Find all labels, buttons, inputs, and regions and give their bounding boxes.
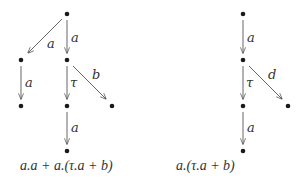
edge-label-a: a: [247, 120, 255, 135]
process-formula-left: a.a + a.(τ.a + b): [20, 158, 113, 174]
edge-label-tau: τ: [246, 75, 254, 90]
edge-m1-rt: [73, 66, 106, 99]
state-node: [241, 12, 246, 17]
edge-m1-rt: [249, 66, 282, 99]
edge-label-a: a: [247, 30, 255, 45]
right-diagram: a τ d a a.(τ.a + b): [176, 12, 290, 174]
state-node: [241, 104, 246, 109]
edge-label-a: a: [71, 30, 79, 45]
left-diagram: a a a τ b a a.a + a.(τ.a + b): [19, 12, 115, 174]
state-node: [241, 149, 246, 154]
edge-r-l1: [28, 19, 62, 53]
edge-label-tau: τ: [70, 75, 78, 90]
state-node: [65, 149, 70, 154]
edge-label-d: d: [268, 67, 276, 82]
state-node: [65, 12, 70, 17]
state-node: [241, 58, 246, 63]
edge-label-a: a: [25, 75, 33, 90]
edge-label-b: b: [92, 67, 100, 82]
state-node: [19, 104, 24, 109]
state-node: [19, 58, 24, 63]
transition-diagrams: a a a τ b a a.a + a.(τ.a + b) a τ d a a.…: [0, 0, 305, 180]
state-node: [65, 58, 70, 63]
state-node: [286, 104, 291, 109]
process-formula-right: a.(τ.a + b): [176, 158, 235, 174]
edge-label-a: a: [47, 36, 55, 51]
state-node: [65, 104, 70, 109]
state-node: [110, 104, 115, 109]
edge-label-a: a: [71, 120, 79, 135]
